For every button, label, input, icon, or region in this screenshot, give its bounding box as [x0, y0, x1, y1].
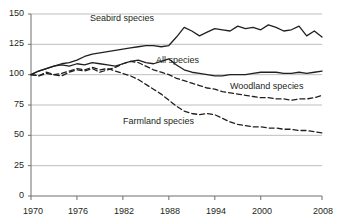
chart-container: 150 125 100 75 50 25 0 1970 1976 1982 19… — [0, 0, 330, 224]
chart-plot-area — [0, 0, 330, 224]
